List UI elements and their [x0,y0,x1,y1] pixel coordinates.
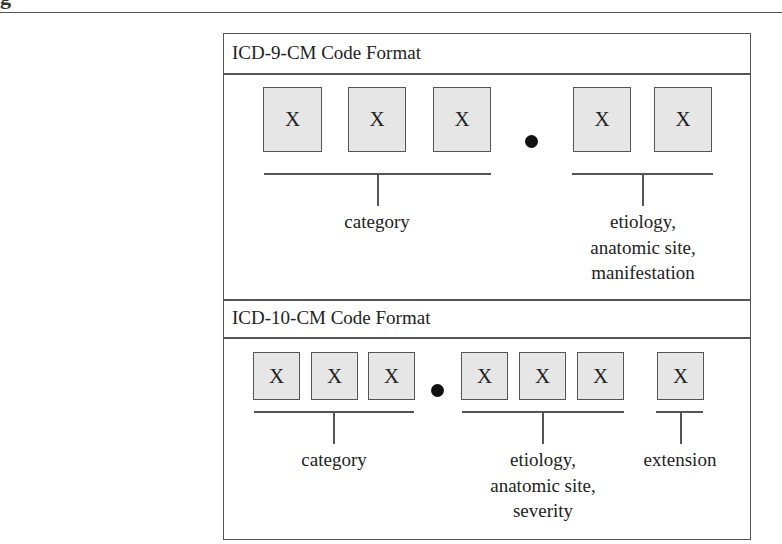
icd9-code-box-2: X [348,87,406,152]
icd10-header-divider [223,337,751,339]
icd10-section-title: ICD-10-CM Code Format [232,307,430,329]
icd9-code-box-3: X [433,87,491,152]
icd10-code-box-7: X [657,352,704,400]
icd10-code-box-6: X [577,352,624,400]
icd9-code-box-1: X [263,87,322,152]
icd10-category-bracket-stem [333,411,335,444]
icd9-etiology-bracket-stem [642,173,644,206]
icd10-extension-bracket-stem [680,411,682,444]
icd10-code-box-5: X [519,352,566,400]
icd10-code-box-1: X [253,352,300,400]
icd9-code-box-5: X [654,87,712,152]
icd9-etiology-label: etiology, anatomic site, manifestation [562,209,724,286]
icd10-code-box-4: X [461,352,508,400]
icd9-code-box-4: X [573,87,631,152]
cropped-heading: g [0,0,11,8]
icd10-code-box-2: X [311,352,358,400]
icd9-category-label: category [297,209,457,235]
icd10-decimal-point-icon [431,384,444,397]
icd9-category-bracket-stem [377,173,379,206]
icd10-extension-label: extension [630,447,730,473]
icd10-code-box-3: X [368,352,415,400]
icd9-header-divider [223,73,751,75]
icd10-etiology-bracket-stem [542,411,544,444]
icd10-etiology-label: etiology, anatomic site, severity [462,447,624,524]
top-rule-divider [0,12,782,13]
icd9-section-title: ICD-9-CM Code Format [232,42,421,64]
icd10-category-label: category [253,447,415,473]
section-divider [223,299,751,301]
icd9-decimal-point-icon [525,135,538,148]
